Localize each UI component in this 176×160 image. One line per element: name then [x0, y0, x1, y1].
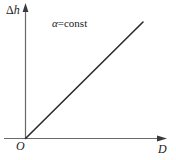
x-axis-arrow-icon [157, 135, 167, 141]
data-line [26, 22, 144, 139]
figure-container: Δh D O α=const [0, 0, 176, 160]
annotation-relation: =const [58, 17, 87, 29]
x-axis-label: D [158, 143, 167, 155]
annotation-alpha-const: α=const [52, 18, 87, 29]
origin-label: O [16, 140, 25, 152]
y-axis-variable: h [14, 3, 20, 17]
y-axis-arrow-icon [23, 3, 29, 12]
y-axis-label: Δh [6, 4, 20, 16]
plot-canvas [0, 0, 176, 160]
y-axis-delta-symbol: Δ [6, 3, 14, 17]
